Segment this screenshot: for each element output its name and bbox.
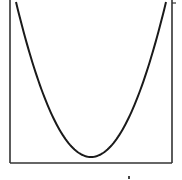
parabola-chart [0, 0, 182, 180]
plot-frame [10, 0, 176, 163]
parabola-curve [16, 2, 166, 157]
bottom-mark [128, 176, 130, 179]
